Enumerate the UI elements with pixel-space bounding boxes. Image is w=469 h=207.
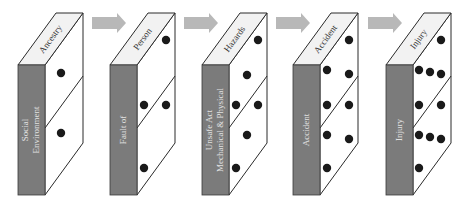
domino-dot [415, 101, 423, 109]
domino-dot [323, 131, 331, 139]
domino-hazards: HazardsUnsafe ActMechanical & Physical [202, 13, 267, 195]
domino-dot [243, 131, 251, 139]
domino-dot [254, 101, 262, 109]
arrow-icon [184, 13, 218, 33]
domino-front-label: Social [20, 118, 30, 141]
domino-front-label: Injury [394, 119, 404, 141]
dominoes-layer: AncestrySocialEnvironmentPersonFault ofH… [18, 13, 451, 195]
domino-front-label: Mechanical & Physical [215, 88, 225, 172]
domino-dot [162, 36, 170, 44]
domino-dot [140, 101, 148, 109]
domino-dot [437, 70, 445, 78]
domino-front-label: Environment [31, 106, 41, 153]
domino-dot [140, 164, 148, 172]
domino-dot [323, 164, 331, 172]
domino-dot [254, 36, 262, 44]
domino-dot [345, 70, 353, 78]
domino-dot [437, 135, 445, 143]
arrow-icon [276, 13, 310, 33]
domino-dot [415, 131, 423, 139]
domino-dot [162, 101, 170, 109]
domino-person: PersonFault of [110, 13, 175, 195]
domino-front-label: Fault of [118, 116, 128, 144]
domino-dot [57, 129, 65, 137]
domino-dot [426, 68, 434, 76]
domino-dot [437, 36, 445, 44]
domino-dot [345, 101, 353, 109]
domino-front-label: Unsafe Act [204, 109, 214, 150]
domino-injury: InjuryInjury [386, 13, 451, 195]
arrow-icon [92, 13, 126, 33]
domino-dot [345, 135, 353, 143]
domino-dot [243, 71, 251, 79]
domino-dot [426, 133, 434, 141]
domino-dot [232, 164, 240, 172]
domino-diagram: AncestrySocialEnvironmentPersonFault ofH… [0, 0, 469, 207]
arrow-icon [368, 13, 402, 33]
domino-dot [57, 69, 65, 77]
domino-dot [437, 101, 445, 109]
domino-dot [345, 36, 353, 44]
domino-front-label: Accident [301, 113, 311, 146]
domino-dot [415, 164, 423, 172]
domino-ancestry: AncestrySocialEnvironment [18, 13, 83, 195]
domino-dot [323, 101, 331, 109]
domino-accident: AccidentAccident [293, 13, 358, 195]
domino-dot [323, 66, 331, 74]
domino-dot [415, 66, 423, 74]
domino-dot [232, 101, 240, 109]
